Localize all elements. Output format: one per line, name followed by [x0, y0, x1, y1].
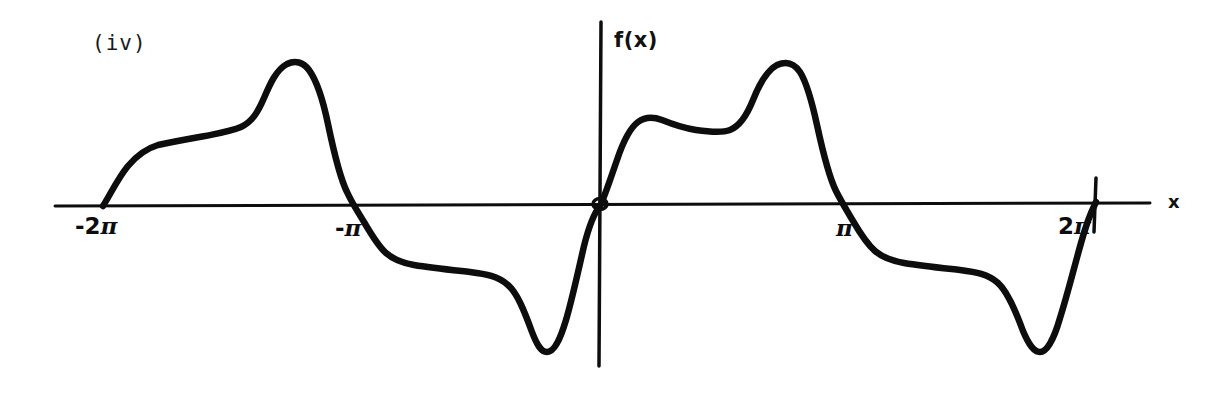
figure-container: (iv) f(x) x -2π -π π 2π	[0, 0, 1205, 398]
pi-symbol: π	[836, 214, 853, 241]
x-tick-label-neg-two-pi: -2π	[75, 214, 117, 238]
tick-coefficient: 2	[85, 213, 101, 239]
function-curve-right-period	[600, 63, 1096, 352]
pi-symbol: π	[345, 214, 362, 241]
tick-sign: -	[75, 213, 85, 239]
y-axis-label: f(x)	[614, 30, 658, 51]
pi-symbol: π	[1074, 212, 1091, 239]
pi-symbol: π	[101, 212, 118, 239]
tick-sign: -	[335, 215, 345, 241]
tick-coefficient: 2	[1058, 213, 1074, 239]
figure-enumeration-label: (iv)	[92, 33, 147, 54]
plot-canvas	[0, 0, 1205, 398]
y-axis-line	[599, 22, 601, 366]
x-tick-label-pi: π	[836, 216, 853, 240]
x-tick-label-neg-pi: -π	[335, 216, 361, 240]
x-axis-label: x	[1168, 193, 1180, 211]
x-tick-label-two-pi: 2π	[1058, 214, 1091, 238]
